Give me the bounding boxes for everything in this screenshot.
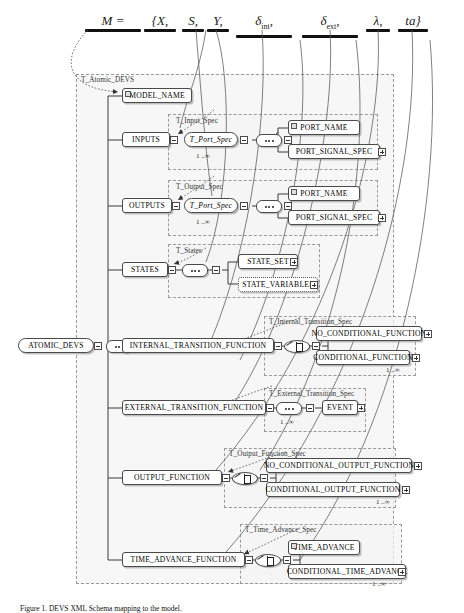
node-output-port-spec-label: T_Port_Spec [190,201,232,210]
node-atomic-devs-label: ATOMIC_DEVS [28,341,83,350]
node-internal-transition-function[interactable]: INTERNAL_TRANSITION_FUNCTION [122,338,274,353]
adorn-input-port-signal-spec[interactable] [378,148,386,156]
node-internal-transition-function-label: INTERNAL_TRANSITION_FUNCTION [130,341,267,350]
adorn-output-choice[interactable] [260,474,268,482]
node-atomic-devs[interactable]: ATOMIC_DEVS [18,338,94,353]
cardinality-output-port: 1 ..∞ [196,218,210,226]
node-no-conditional-output-function[interactable]: NO_CONDITIONAL_OUTPUT_FUNCTION [266,458,412,473]
figure-caption: Figure 1. DEVS XML Schema mapping to the… [20,604,182,613]
sequence-connector-states[interactable] [182,264,208,277]
node-output-port-spec[interactable]: T_Port_Spec [184,198,238,213]
adorn-input-port-seq[interactable] [284,136,292,144]
adorn-event[interactable] [357,404,365,412]
sequence-connector-output-port[interactable] [256,200,282,213]
adorn-output-port-signal-spec[interactable] [378,214,386,222]
adorn-external-seq[interactable] [306,404,314,412]
node-conditional-time-advance[interactable]: CONDITIONAL_TIME_ADVANCE [288,564,406,579]
node-output-port-signal-spec[interactable]: PORT_SIGNAL_SPEC [288,210,380,225]
cardinality-time-advance-conditional: 1 ..∞ [372,580,386,588]
node-states[interactable]: STATES [122,262,168,277]
node-outputs-label: OUTPUTS [129,201,165,210]
sequence-connector-input-port[interactable] [256,134,282,147]
node-no-conditional-output-function-label: NO_CONDITIONAL_OUTPUT_FUNCTION [264,461,415,470]
node-time-advance-label: TIME_ADVANCE [293,543,355,552]
node-states-label: STATES [131,265,159,274]
sequence-connector-external[interactable] [276,402,302,415]
sequence-mark-icon [291,189,297,195]
adorn-inputs[interactable] [170,136,178,144]
node-event[interactable]: EVENT [322,400,358,415]
node-conditional-time-advance-label: CONDITIONAL_TIME_ADVANCE [287,567,408,576]
node-conditional-function-label: CONDITIONAL_FUNCTION [313,353,413,362]
cardinality-external-event: 1 ..∞ [280,418,294,426]
adorn-conditional-function[interactable] [412,354,420,362]
node-output-function-label: OUTPUT_FUNCTION [134,473,210,482]
cardinality-input-port: 1 ..∞ [196,152,210,160]
node-conditional-output-function-label: CONDITIONAL_OUTPUT_FUNCTION [266,485,401,494]
sequence-mark-icon [291,123,297,129]
adorn-output-port-seq[interactable] [284,202,292,210]
adorn-no-conditional-function[interactable] [424,330,432,338]
node-state-variables[interactable]: STATE_VARIABLES [238,277,318,292]
adorn-states-seq[interactable] [212,266,220,274]
node-state-variables-label: STATE_VARIABLES [242,280,313,289]
node-input-port-signal-spec[interactable]: PORT_SIGNAL_SPEC [288,144,380,159]
node-state-set[interactable]: STATE_SET [238,254,298,269]
node-conditional-output-function[interactable]: CONDITIONAL_OUTPUT_FUNCTION [266,482,400,497]
adorn-state-variables[interactable] [310,281,318,289]
adorn-no-conditional-output-function[interactable] [414,462,422,470]
adorn-output-function[interactable] [222,474,230,482]
cardinality-output-conditional: 1 ..∞ [376,498,390,506]
node-no-conditional-function-label: NO_CONDITIONAL_FUNCTION [312,329,427,338]
adorn-states[interactable] [168,266,176,274]
node-input-port-signal-spec-label: PORT_SIGNAL_SPEC [296,147,373,156]
tree-lines [108,96,336,572]
node-time-advance-function-label: TIME_ADVANCE_FUNCTION [131,555,237,564]
node-time-advance-function[interactable]: TIME_ADVANCE_FUNCTION [122,552,245,567]
adorn-atomic-devs[interactable] [94,342,102,350]
adorn-time-advance-choice[interactable] [283,556,291,564]
adorn-internal-choice[interactable] [312,342,320,350]
adorn-output-port-spec[interactable] [240,202,248,210]
cardinality-internal-conditional: 1 ..∞ [386,366,400,374]
node-output-port-signal-spec-label: PORT_SIGNAL_SPEC [296,213,373,222]
adorn-conditional-output-function[interactable] [402,486,410,494]
node-inputs-label: INPUTS [132,135,160,144]
adorn-external-transition-function[interactable] [266,404,274,412]
node-event-label: EVENT [327,403,353,412]
node-output-port-name-label: PORT_NAME [300,189,347,198]
node-conditional-function[interactable]: CONDITIONAL_FUNCTION [316,350,410,365]
choice-connector-time-advance[interactable] [255,554,281,567]
adorn-conditional-time-advance[interactable] [398,568,406,576]
node-time-advance[interactable]: TIME_ADVANCE [288,540,360,555]
node-input-port-spec[interactable]: T_Port_Spec [184,132,238,147]
node-outputs[interactable]: OUTPUTS [122,198,172,213]
node-model-name[interactable]: MODEL_NAME [122,88,192,103]
node-external-transition-function[interactable]: EXTERNAL_TRANSITION_FUNCTION [122,400,266,415]
node-output-port-name[interactable]: PORT_NAME [288,186,360,201]
node-input-port-name-label: PORT_NAME [300,123,347,132]
node-inputs[interactable]: INPUTS [122,132,170,147]
choice-connector-internal[interactable] [284,340,310,353]
node-input-port-name[interactable]: PORT_NAME [288,120,360,135]
sequence-mark-icon [125,91,131,97]
node-model-name-label: MODEL_NAME [129,91,185,100]
adorn-time-advance-function[interactable] [245,556,253,564]
adorn-input-port-spec[interactable] [240,136,248,144]
node-no-conditional-function[interactable]: NO_CONDITIONAL_FUNCTION [316,326,422,341]
adorn-internal-transition-function[interactable] [274,342,282,350]
node-state-set-label: STATE_SET [247,257,289,266]
sequence-mark-icon [291,543,297,549]
choice-connector-output[interactable] [232,472,258,485]
adorn-state-set[interactable] [290,258,298,266]
adorn-outputs[interactable] [172,202,180,210]
node-output-function[interactable]: OUTPUT_FUNCTION [122,470,222,485]
node-external-transition-function-label: EXTERNAL_TRANSITION_FUNCTION [125,403,264,412]
node-input-port-spec-label: T_Port_Spec [190,135,232,144]
